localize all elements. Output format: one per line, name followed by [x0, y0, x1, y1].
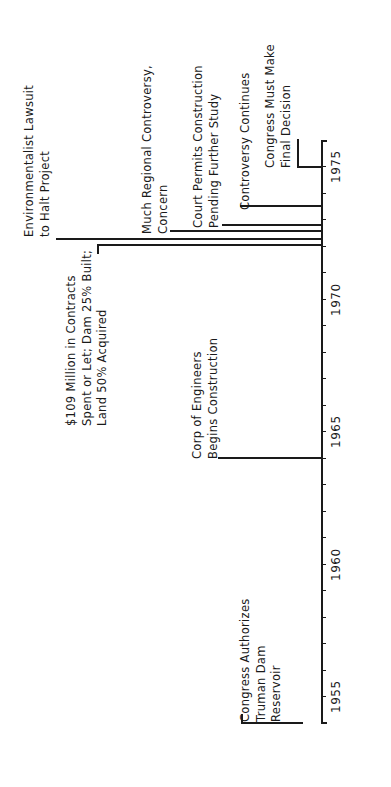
tick: [321, 246, 326, 247]
event-line-court-permits: [222, 224, 321, 226]
label-line: Congress Must Make: [263, 44, 279, 168]
tick: [321, 590, 326, 591]
year-label-1975: 1975: [329, 150, 343, 183]
label-line: Court Permits Construction: [191, 65, 207, 228]
label-line: Land 50% Acquired: [95, 250, 111, 426]
label-line: Corp of Engineers: [190, 338, 206, 459]
tick: [321, 484, 326, 485]
tick: [321, 378, 326, 379]
timeline-diagram: 1975 1970 1965 1960 1955 Congress Author…: [0, 0, 391, 787]
label-line: Congress Authorizes: [238, 598, 254, 722]
year-label-1960: 1960: [329, 548, 343, 581]
tick-1960: [321, 564, 326, 565]
year-label-1955: 1955: [329, 680, 343, 713]
label-line: Concern: [156, 65, 172, 234]
tick-1975: [321, 166, 326, 167]
label-line: Pending Further Study: [207, 65, 223, 228]
event-label-env-lawsuit: Environmentalist Lawsuit to Halt Project: [22, 85, 53, 237]
tick: [321, 511, 326, 512]
tick: [321, 458, 326, 459]
tick-1955: [321, 696, 326, 697]
label-line: Truman Dam: [254, 598, 270, 722]
label-line: Begins Construction: [206, 338, 222, 459]
label-line: Reservoir: [269, 598, 285, 722]
tick-1970: [321, 299, 326, 300]
tick: [321, 352, 326, 353]
event-bracket: [297, 139, 299, 167]
tick: [321, 193, 326, 194]
event-label-corp-begins: Corp of Engineers Begins Construction: [190, 338, 221, 459]
event-label-congress-decision: Congress Must Make Final Decision: [263, 44, 294, 168]
tick: [321, 537, 326, 538]
label-line: Environmentalist Lawsuit: [22, 85, 38, 237]
event-line-corp-begins: [218, 457, 321, 459]
event-label-controversy-continues: Controversy Continues: [238, 73, 254, 210]
year-label-1970: 1970: [329, 283, 343, 316]
year-label-1965: 1965: [329, 415, 343, 448]
event-label-regional-controversy: Much Regional Controversy, Concern: [140, 65, 171, 234]
label-line: Controversy Continues: [238, 73, 254, 210]
event-line-env-lawsuit: [56, 238, 321, 240]
event-line-million-contracts: [97, 244, 321, 246]
label-line: to Halt Project: [38, 85, 54, 237]
event-label-congress-authorizes: Congress Authorizes Truman Dam Reservoir: [238, 598, 285, 722]
axis-end-cap-bottom: [321, 722, 327, 724]
axis-end-cap-top: [321, 140, 327, 142]
event-line-congress-decision: [297, 166, 321, 168]
label-line: Spent or Let; Dam 25% Built;: [80, 250, 96, 426]
event-line-congress-authorizes: [241, 722, 303, 724]
tick: [321, 219, 326, 220]
tick: [321, 325, 326, 326]
tick: [321, 405, 326, 406]
tick: [321, 670, 326, 671]
tick-1965: [321, 431, 326, 432]
label-line: Final Decision: [279, 44, 295, 168]
tick: [321, 617, 326, 618]
event-line-regional-controversy: [170, 230, 321, 232]
label-line: Much Regional Controversy,: [140, 65, 156, 234]
tick: [321, 643, 326, 644]
tick: [321, 272, 326, 273]
event-label-court-permits: Court Permits Construction Pending Furth…: [191, 65, 222, 228]
event-label-million-contracts: $109 Million in Contracts Spent or Let; …: [64, 250, 111, 426]
label-line: $109 Million in Contracts: [64, 250, 80, 426]
